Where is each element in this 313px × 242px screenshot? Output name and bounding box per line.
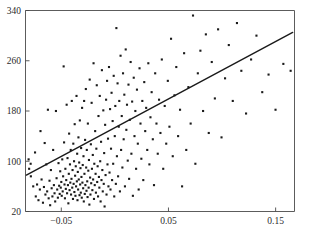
scatter-point xyxy=(50,169,52,171)
scatter-point xyxy=(138,188,140,190)
scatter-point xyxy=(108,66,110,68)
scatter-point xyxy=(121,166,123,168)
scatter-point xyxy=(80,147,82,149)
scatter-point xyxy=(134,110,136,112)
scatter-point xyxy=(102,190,104,192)
scatter-point xyxy=(48,197,50,199)
scatter-point xyxy=(110,148,112,150)
scatter-point xyxy=(113,75,115,77)
scatter-point xyxy=(63,141,65,143)
scatter-point xyxy=(236,22,238,24)
scatter-point xyxy=(98,176,100,178)
scatter-point xyxy=(85,190,87,192)
scatter-point xyxy=(73,183,75,185)
scatter-point xyxy=(97,115,99,117)
scatter-point xyxy=(44,193,46,195)
scatter-point xyxy=(48,180,50,182)
scatter-point xyxy=(192,14,194,16)
scatter-point xyxy=(121,115,123,117)
scatter-point xyxy=(224,77,226,79)
scatter-point xyxy=(80,176,82,178)
scatter-point xyxy=(94,184,96,186)
scatter-point xyxy=(92,178,94,180)
scatter-point xyxy=(85,88,87,90)
scatter-point xyxy=(136,89,138,91)
scatter-point xyxy=(159,132,161,134)
scatter-point xyxy=(103,183,105,185)
scatter-point xyxy=(73,191,75,193)
scatter-point xyxy=(70,178,72,180)
scatter-point xyxy=(72,198,74,200)
scatter-point xyxy=(75,95,77,97)
scatter-point xyxy=(103,152,105,154)
scatter-point xyxy=(81,197,83,199)
scatter-point xyxy=(122,72,124,74)
scatter-point xyxy=(66,157,68,159)
scatter-point xyxy=(153,184,155,186)
scatter-point xyxy=(71,100,73,102)
scatter-point xyxy=(148,163,150,165)
scatter-point xyxy=(79,119,81,121)
scatter-point xyxy=(123,138,125,140)
scatter-point xyxy=(63,65,65,67)
scatter-point xyxy=(245,112,247,114)
scatter-point xyxy=(37,199,39,201)
scatter-point xyxy=(152,138,154,140)
scatter-point xyxy=(290,70,292,72)
scatter-point xyxy=(114,135,116,137)
scatter-point xyxy=(57,162,59,164)
scatter-point xyxy=(172,155,174,157)
scatter-point xyxy=(141,100,143,102)
scatter-point xyxy=(80,192,82,194)
scatter-point xyxy=(88,187,90,189)
scatter-point xyxy=(55,110,57,112)
scatter-point xyxy=(28,158,30,160)
x-tick-label: 0.05 xyxy=(160,216,177,226)
scatter-point xyxy=(99,160,101,162)
scatter-point xyxy=(82,164,84,166)
scatter-point xyxy=(65,179,67,181)
scatter-point xyxy=(120,149,122,151)
scatter-point xyxy=(62,175,64,177)
scatter-point xyxy=(167,80,169,82)
scatter-point xyxy=(87,196,89,198)
scatter-point xyxy=(73,160,75,162)
scatter-point xyxy=(54,200,56,202)
scatter-point xyxy=(117,82,119,84)
scatter-point xyxy=(43,186,45,188)
axes-group xyxy=(26,11,295,212)
scatter-point xyxy=(155,123,157,125)
scatter-point xyxy=(70,193,72,195)
scatter-point xyxy=(101,69,103,71)
scatter-point xyxy=(35,195,37,197)
scatter-point xyxy=(140,158,142,160)
scatter-point xyxy=(66,192,68,194)
scatter-point xyxy=(34,151,36,153)
scatter-point xyxy=(88,204,90,206)
scatter-point xyxy=(113,195,115,197)
scatter-point xyxy=(91,189,93,191)
scatter-point xyxy=(274,109,276,111)
scatter-point xyxy=(126,104,128,106)
scatter-point xyxy=(53,184,55,186)
scatter-point xyxy=(107,138,109,140)
scatter-point xyxy=(49,204,51,206)
scatter-point xyxy=(107,185,109,187)
scatter-point xyxy=(154,72,156,74)
scatter-point xyxy=(68,173,70,175)
scatter-point xyxy=(123,94,125,96)
scatter-point xyxy=(69,189,71,191)
scatter-point xyxy=(162,168,164,170)
scatter-point xyxy=(111,179,113,181)
scatter-point xyxy=(109,188,111,190)
scatter-point xyxy=(71,187,73,189)
scatter-point xyxy=(56,177,58,179)
scatter-point xyxy=(78,161,80,163)
scatter-point xyxy=(194,163,196,165)
scatter-point xyxy=(261,91,263,93)
y-tick-label: 20 xyxy=(12,207,22,217)
scatter-point xyxy=(130,153,132,155)
scatter-point xyxy=(61,158,63,160)
scatter-point xyxy=(30,163,32,165)
scatter-point xyxy=(74,123,76,125)
